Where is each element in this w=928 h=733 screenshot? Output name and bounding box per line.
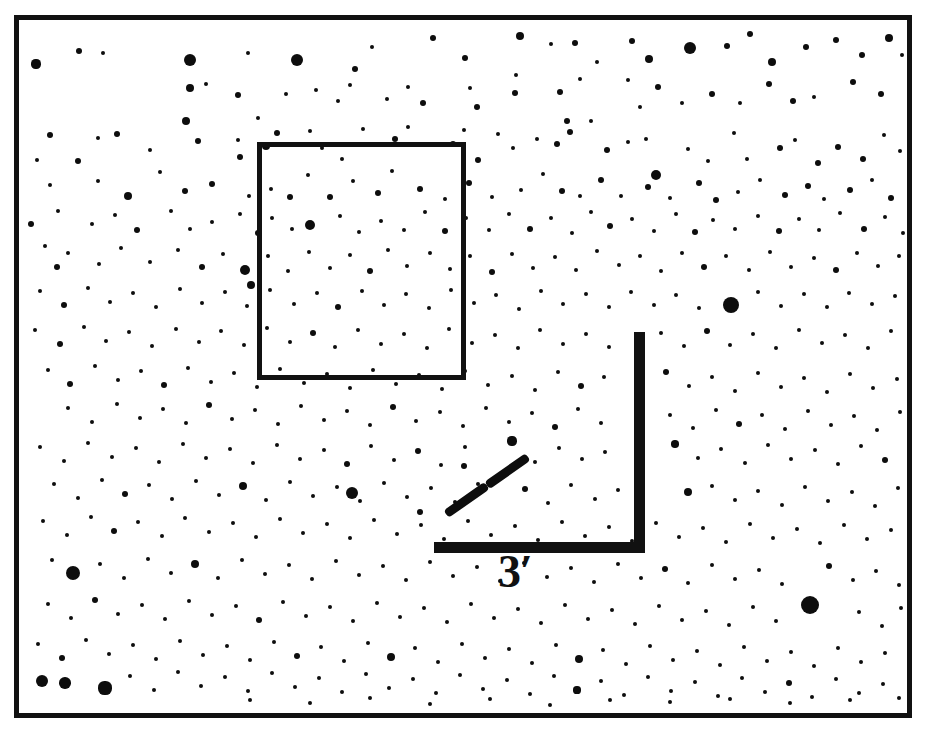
star: [385, 97, 389, 101]
star: [169, 209, 173, 213]
star: [496, 132, 500, 136]
star: [815, 160, 821, 166]
star: [299, 404, 303, 408]
star: [584, 292, 588, 296]
star: [100, 478, 104, 482]
star: [822, 197, 826, 201]
star: [866, 346, 870, 350]
star: [859, 660, 863, 664]
star: [186, 84, 194, 92]
star: [888, 195, 894, 201]
star: [766, 443, 770, 447]
star: [469, 602, 473, 606]
star: [474, 104, 480, 110]
star: [264, 498, 268, 502]
star: [549, 42, 553, 46]
star: [573, 686, 581, 694]
star: [757, 568, 761, 572]
star: [696, 180, 702, 186]
star: [472, 301, 476, 305]
star: [825, 305, 829, 309]
star: [624, 662, 628, 666]
star: [302, 381, 306, 385]
star: [148, 148, 152, 152]
star: [885, 34, 893, 42]
star: [28, 221, 34, 227]
star: [96, 136, 100, 140]
star: [97, 262, 101, 266]
star: [836, 462, 840, 466]
star: [779, 304, 783, 308]
star: [274, 130, 280, 136]
star: [564, 118, 570, 124]
star: [817, 228, 821, 232]
star: [898, 410, 902, 414]
star: [897, 583, 901, 587]
star: [692, 229, 698, 235]
star: [417, 509, 423, 515]
star: [659, 269, 663, 273]
star: [710, 484, 714, 488]
star: [428, 560, 432, 564]
star: [514, 73, 518, 77]
star: [629, 38, 635, 44]
star: [511, 146, 515, 150]
star: [756, 290, 760, 294]
star: [157, 460, 161, 464]
star: [428, 702, 432, 706]
star: [489, 269, 495, 275]
star: [494, 293, 498, 297]
star: [462, 55, 468, 61]
star: [896, 486, 900, 490]
star: [733, 389, 737, 393]
star: [86, 441, 90, 445]
star: [263, 572, 267, 576]
star: [595, 249, 599, 253]
star: [610, 608, 614, 612]
star: [342, 659, 346, 663]
star: [531, 266, 535, 270]
star: [119, 246, 123, 250]
star: [589, 210, 593, 214]
star: [158, 170, 162, 174]
star: [747, 31, 753, 37]
star: [84, 638, 88, 642]
star: [601, 648, 605, 652]
star: [57, 341, 63, 347]
star: [790, 98, 796, 104]
star: [686, 147, 690, 151]
star: [475, 157, 481, 163]
star: [228, 447, 232, 451]
star: [76, 48, 82, 54]
star: [108, 300, 112, 304]
star: [733, 577, 737, 581]
star: [122, 576, 126, 580]
star: [589, 119, 593, 123]
star: [272, 640, 276, 644]
star: [201, 653, 205, 657]
star: [684, 42, 696, 54]
star: [541, 172, 545, 176]
star: [54, 264, 60, 270]
star: [217, 493, 221, 497]
star: [883, 651, 887, 655]
star: [101, 51, 105, 55]
star: [335, 485, 339, 489]
star: [322, 418, 326, 422]
star: [586, 617, 590, 621]
star: [98, 562, 102, 566]
star: [774, 619, 778, 623]
star: [619, 194, 623, 198]
star: [859, 52, 865, 58]
star: [107, 652, 111, 656]
star: [451, 574, 455, 578]
star: [161, 407, 165, 411]
star: [727, 623, 731, 627]
star: [795, 527, 799, 531]
star: [204, 456, 208, 460]
star: [645, 184, 651, 190]
star: [639, 576, 643, 580]
star: [104, 339, 108, 343]
star: [899, 606, 903, 610]
star: [805, 183, 811, 189]
